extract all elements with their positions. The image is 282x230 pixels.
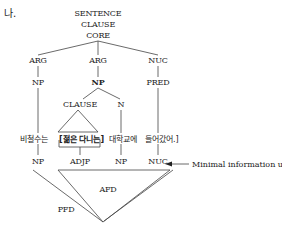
label-np-bottom-1: NP [32, 157, 44, 166]
node-core: CORE [86, 31, 110, 40]
node-nuc: NUC [148, 56, 167, 65]
word-predicate: 들어갔어.] [145, 135, 179, 144]
region-pfd: PFD [58, 205, 75, 214]
label-nuc-bottom: NUC [148, 157, 167, 166]
node-n: N [118, 100, 125, 109]
word-location: 대학교에 [109, 135, 137, 144]
node-arg-1: ARG [29, 56, 47, 65]
node-pred: PRED [147, 78, 170, 87]
word-relative-clause: [젊은 다니는] [59, 135, 104, 144]
region-afd: AFD [99, 185, 116, 194]
word-subject: 비철수는 [20, 135, 48, 144]
node-clause-embedded: CLAUSE [63, 100, 97, 109]
node-sentence: SENTENCE [75, 9, 122, 18]
node-arg-2: ARG [89, 56, 107, 65]
node-np-2: NP [92, 78, 105, 87]
node-np-1: NP [32, 78, 44, 87]
minimal-information-unit-note: Minimal information unit [192, 160, 282, 169]
node-clause-top: CLAUSE [81, 20, 115, 29]
tree-lines [0, 0, 282, 230]
label-np-bottom-2: NP [115, 157, 127, 166]
label-adjp: ADJP [70, 157, 90, 166]
